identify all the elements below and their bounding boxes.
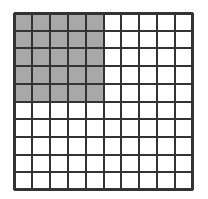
grid-cell-empty: [32, 137, 50, 155]
grid-cell-shaded: [32, 66, 50, 84]
grid-cell-empty: [139, 66, 157, 84]
grid-cell-empty: [50, 102, 68, 120]
grid-cell-empty: [104, 172, 122, 190]
grid-cell-empty: [157, 31, 175, 49]
grid-cell-empty: [14, 155, 32, 173]
grid-cell-shaded: [14, 31, 32, 49]
grid-cell-empty: [139, 13, 157, 31]
grid-cell-empty: [175, 48, 193, 66]
grid-cell-empty: [32, 172, 50, 190]
grid-cell-shaded: [14, 84, 32, 102]
grid-cell-shaded: [86, 13, 104, 31]
grid-cell-empty: [175, 155, 193, 173]
grid-cell-shaded: [86, 48, 104, 66]
grid-cell-shaded: [68, 66, 86, 84]
grid-cell-empty: [139, 155, 157, 173]
grid-cell-empty: [104, 48, 122, 66]
grid-cell-shaded: [50, 48, 68, 66]
grid-cell-empty: [32, 119, 50, 137]
grid-cell-empty: [68, 172, 86, 190]
grid-cell-empty: [68, 102, 86, 120]
grid-cell-empty: [50, 119, 68, 137]
grid-cell-empty: [175, 119, 193, 137]
grid-cell-empty: [104, 119, 122, 137]
grid-cell-shaded: [14, 66, 32, 84]
grid-cell-empty: [157, 155, 175, 173]
grid-cell-empty: [86, 155, 104, 173]
grid-cell-empty: [50, 137, 68, 155]
grid-cell-empty: [50, 155, 68, 173]
grid-cell-empty: [175, 31, 193, 49]
grid-cell-empty: [68, 155, 86, 173]
grid-cell-empty: [32, 102, 50, 120]
grid-cell-empty: [104, 84, 122, 102]
grid-cell-empty: [139, 84, 157, 102]
grid-svg: [14, 13, 193, 190]
grid-cell-empty: [121, 31, 139, 49]
grid-cell-empty: [68, 119, 86, 137]
grid-cell-empty: [86, 102, 104, 120]
grid-cell-shaded: [68, 84, 86, 102]
grid-cell-empty: [175, 13, 193, 31]
grid-cell-empty: [157, 48, 175, 66]
grid-cell-empty: [121, 155, 139, 173]
grid-cell-empty: [175, 66, 193, 84]
figure-root: [0, 0, 208, 199]
grid-cell-empty: [157, 84, 175, 102]
grid-cell-empty: [157, 66, 175, 84]
grid-cell-shaded: [32, 31, 50, 49]
grid-cell-empty: [86, 137, 104, 155]
grid-cell-shaded: [32, 48, 50, 66]
grid-cell-empty: [139, 172, 157, 190]
grid-cell-empty: [104, 13, 122, 31]
grid-cell-empty: [139, 102, 157, 120]
grid-cell-empty: [104, 66, 122, 84]
grid-cell-empty: [121, 119, 139, 137]
grid-cell-empty: [139, 137, 157, 155]
grid-cell-empty: [175, 137, 193, 155]
grid-cell-empty: [104, 155, 122, 173]
grid-cell-empty: [139, 48, 157, 66]
grid-cell-shaded: [32, 13, 50, 31]
grid-cell-empty: [157, 102, 175, 120]
grid-cell-shaded: [14, 13, 32, 31]
grid-cell-empty: [14, 172, 32, 190]
grid-cell-empty: [175, 172, 193, 190]
grid-cell-empty: [157, 137, 175, 155]
grid-cell-shaded: [86, 84, 104, 102]
grid-cell-shaded: [50, 84, 68, 102]
grid-container: [14, 13, 193, 190]
grid-cell-shaded: [32, 84, 50, 102]
grid-cell-shaded: [86, 31, 104, 49]
grid-cell-empty: [104, 102, 122, 120]
grid-cell-shaded: [68, 31, 86, 49]
grid-cell-shaded: [50, 66, 68, 84]
grid-cell-empty: [104, 31, 122, 49]
grid-cell-empty: [121, 66, 139, 84]
grid-cell-empty: [121, 102, 139, 120]
grid-cell-empty: [86, 119, 104, 137]
grid-cell-empty: [121, 84, 139, 102]
grid-cell-shaded: [86, 66, 104, 84]
grid-cell-empty: [139, 31, 157, 49]
grid-cell-empty: [121, 172, 139, 190]
grid-cell-empty: [14, 102, 32, 120]
grid-cell-empty: [175, 102, 193, 120]
grid-cell-shaded: [14, 48, 32, 66]
grid-cell-shaded: [68, 48, 86, 66]
grid-cell-empty: [139, 119, 157, 137]
grid-cell-empty: [14, 119, 32, 137]
grid-cell-empty: [121, 13, 139, 31]
grid-cell-empty: [121, 48, 139, 66]
grid-cell-empty: [68, 137, 86, 155]
grid-cell-empty: [157, 119, 175, 137]
grid-cell-empty: [157, 172, 175, 190]
grid-cell-empty: [14, 137, 32, 155]
grid-cell-shaded: [50, 13, 68, 31]
grid-cell-shaded: [50, 31, 68, 49]
grid-cell-empty: [175, 84, 193, 102]
grid-cell-empty: [157, 13, 175, 31]
grid-cell-shaded: [68, 13, 86, 31]
grid-cell-empty: [50, 172, 68, 190]
grid-cell-empty: [104, 137, 122, 155]
